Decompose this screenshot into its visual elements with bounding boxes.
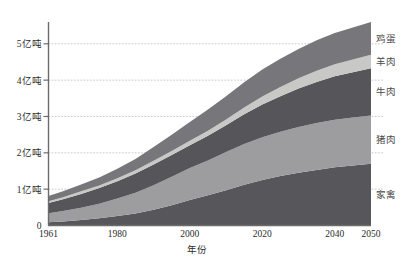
x-tick-label: 2020 bbox=[253, 229, 272, 239]
x-tick-label: 2000 bbox=[180, 229, 199, 239]
y-tick-label: 3亿吨 bbox=[17, 111, 42, 122]
chart-canvas: 01亿吨2亿吨3亿吨4亿吨5亿吨 19611980200020202040205… bbox=[0, 0, 407, 268]
x-tick-label: 2040 bbox=[325, 229, 344, 239]
x-tick-label: 1980 bbox=[108, 229, 127, 239]
legend-label-鸡蛋: 鸡蛋 bbox=[376, 33, 396, 44]
legend-label-猪肉: 猪肉 bbox=[376, 134, 396, 145]
y-tick-label: 5亿吨 bbox=[17, 38, 42, 49]
y-tick-label: 4亿吨 bbox=[17, 75, 42, 86]
y-tick-label: 1亿吨 bbox=[17, 184, 42, 195]
legend-label-牛肉: 牛肉 bbox=[376, 86, 396, 97]
x-tick-label: 1961 bbox=[39, 229, 58, 239]
legend-label-家禽: 家禽 bbox=[376, 189, 396, 200]
legend-label-羊肉: 羊肉 bbox=[376, 56, 396, 67]
y-tick-label: 2亿吨 bbox=[17, 147, 42, 158]
x-axis-title: 年份 bbox=[187, 244, 207, 255]
stacked-area-chart: 01亿吨2亿吨3亿吨4亿吨5亿吨 19611980200020202040205… bbox=[0, 0, 407, 268]
x-tick-label: 2050 bbox=[362, 229, 381, 239]
